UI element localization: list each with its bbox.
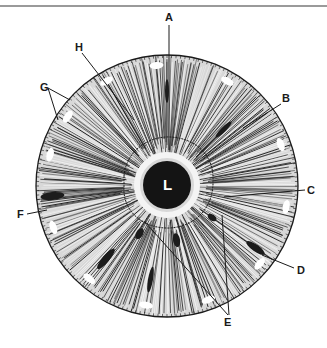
label-C: C	[307, 185, 315, 196]
label-B: B	[282, 93, 290, 104]
pupil-label: L	[163, 177, 172, 192]
label-G: G	[40, 82, 49, 93]
label-F: F	[17, 209, 24, 220]
label-A: A	[165, 12, 173, 23]
label-D: D	[297, 265, 305, 276]
label-H: H	[75, 42, 83, 53]
label-E: E	[224, 317, 231, 328]
iris-diagram	[0, 0, 327, 348]
